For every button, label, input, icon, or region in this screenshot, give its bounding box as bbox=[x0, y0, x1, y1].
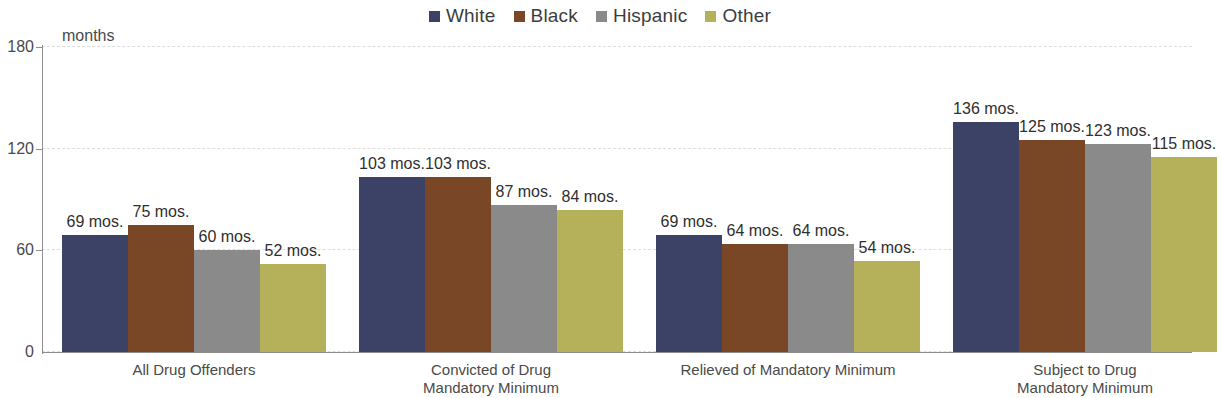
legend-label: Other bbox=[722, 6, 771, 26]
bar-value-label: 84 mos. bbox=[553, 189, 627, 205]
bar[interactable] bbox=[359, 177, 425, 352]
bar-value-label: 103 mos. bbox=[421, 156, 495, 172]
legend-item-black[interactable]: Black bbox=[514, 6, 578, 26]
bar[interactable] bbox=[1019, 140, 1085, 352]
bar-value-label: 54 mos. bbox=[850, 240, 924, 256]
legend-swatch-icon bbox=[429, 11, 440, 22]
y-tick-label: 60 bbox=[0, 242, 34, 258]
bar[interactable] bbox=[854, 261, 920, 353]
bar-value-label: 64 mos. bbox=[784, 223, 858, 239]
y-tick-mark bbox=[36, 149, 43, 150]
bar[interactable] bbox=[557, 210, 623, 352]
bar[interactable] bbox=[425, 177, 491, 352]
bar[interactable] bbox=[62, 235, 128, 352]
legend-label: Black bbox=[531, 6, 578, 26]
y-tick-label: 120 bbox=[0, 141, 34, 157]
y-tick-label: 0 bbox=[0, 344, 34, 360]
legend-item-white[interactable]: White bbox=[429, 6, 496, 26]
bar-value-label: 52 mos. bbox=[256, 243, 330, 259]
bar-value-label: 136 mos. bbox=[949, 101, 1023, 117]
bar-value-label: 60 mos. bbox=[190, 229, 264, 245]
y-tick-mark bbox=[36, 250, 43, 251]
bar-value-label: 125 mos. bbox=[1015, 119, 1089, 135]
x-axis-line bbox=[42, 352, 1192, 353]
bar[interactable] bbox=[491, 205, 557, 352]
bar[interactable] bbox=[1085, 144, 1151, 352]
gridline bbox=[42, 46, 1192, 47]
bar[interactable] bbox=[260, 264, 326, 352]
bar[interactable] bbox=[953, 122, 1019, 352]
y-axis-line bbox=[42, 45, 43, 354]
legend-label: Hispanic bbox=[613, 6, 687, 26]
bar[interactable] bbox=[722, 244, 788, 352]
legend-item-other[interactable]: Other bbox=[705, 6, 771, 26]
bar[interactable] bbox=[656, 235, 722, 352]
bar[interactable] bbox=[128, 225, 194, 352]
bar-value-label: 69 mos. bbox=[58, 214, 132, 230]
x-category-label: Subject to Drug Mandatory Minimum bbox=[893, 361, 1221, 397]
legend-swatch-icon bbox=[514, 11, 525, 22]
legend-swatch-icon bbox=[705, 11, 716, 22]
legend-swatch-icon bbox=[596, 11, 607, 22]
bar[interactable] bbox=[194, 250, 260, 352]
legend-item-hispanic[interactable]: Hispanic bbox=[596, 6, 687, 26]
bar-value-label: 69 mos. bbox=[652, 214, 726, 230]
bar-value-label: 123 mos. bbox=[1081, 123, 1155, 139]
chart-legend: WhiteBlackHispanicOther bbox=[0, 4, 1200, 28]
plot-area: 69 mos.75 mos.60 mos.52 mos.103 mos.103 … bbox=[42, 47, 1192, 352]
legend-label: White bbox=[446, 6, 496, 26]
y-axis-title: months bbox=[62, 27, 114, 45]
bar-value-label: 103 mos. bbox=[355, 156, 429, 172]
bar[interactable] bbox=[1151, 157, 1217, 352]
y-tick-mark bbox=[36, 47, 43, 48]
y-tick-label: 180 bbox=[0, 39, 34, 55]
bar-value-label: 64 mos. bbox=[718, 223, 792, 239]
bar[interactable] bbox=[788, 244, 854, 352]
bar-value-label: 75 mos. bbox=[124, 204, 198, 220]
bar-value-label: 115 mos. bbox=[1147, 136, 1221, 152]
bar-value-label: 87 mos. bbox=[487, 184, 561, 200]
